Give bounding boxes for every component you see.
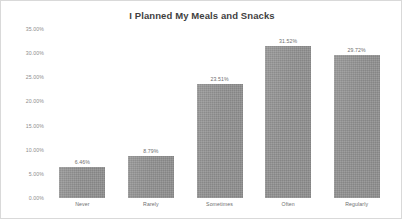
x-axis-category-label: Rarely: [143, 201, 159, 207]
bar[interactable]: [334, 55, 380, 199]
y-axis-tick-label: 15.00%: [26, 123, 44, 129]
bar-value-label: 29.72%: [348, 47, 366, 53]
bar[interactable]: [265, 46, 311, 198]
bar-slot: 29.72%: [334, 29, 380, 198]
y-axis-tick-label: 25.00%: [26, 74, 44, 80]
x-axis-category-label: Sometimes: [206, 201, 233, 207]
y-axis-tick-label: 0.00%: [29, 195, 44, 201]
y-axis-tick-label: 5.00%: [29, 171, 44, 177]
y-axis-tick-label: 35.00%: [26, 26, 44, 32]
bar-slot: 8.79%: [128, 29, 174, 198]
x-axis-category-label: Never: [75, 201, 89, 207]
bar-value-label: 8.79%: [143, 148, 158, 154]
bar[interactable]: [128, 156, 174, 198]
x-axis-category-label: Often: [281, 201, 294, 207]
bar-value-label: 31.52%: [279, 38, 297, 44]
plot-area: 35.00%30.00%25.00%20.00%15.00%10.00%5.00…: [48, 29, 391, 198]
bar-slot: 6.46%: [59, 29, 105, 198]
bar[interactable]: [59, 167, 105, 198]
chart-container: I Planned My Meals and Snacks 35.00%30.0…: [0, 0, 402, 219]
y-axis-tick-label: 30.00%: [26, 50, 44, 56]
bar-slot: 31.52%: [265, 29, 311, 198]
bar-value-label: 23.51%: [210, 76, 228, 82]
chart-title: I Planned My Meals and Snacks: [1, 10, 402, 21]
bar[interactable]: [197, 84, 243, 198]
bar-slot: 23.51%: [197, 29, 243, 198]
bar-value-label: 6.46%: [75, 159, 90, 165]
x-axis-category-label: Regularly: [345, 201, 368, 207]
y-axis-tick-label: 20.00%: [26, 98, 44, 104]
y-axis-tick-label: 10.00%: [26, 147, 44, 153]
